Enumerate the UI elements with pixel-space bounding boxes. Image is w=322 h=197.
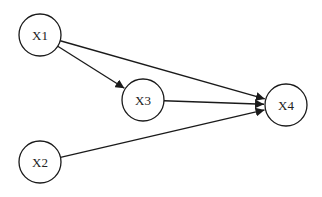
edge-x2-to-x4 bbox=[60, 110, 264, 157]
node-label: X1 bbox=[32, 28, 48, 43]
node-label: X4 bbox=[278, 98, 294, 113]
node-x1: X1 bbox=[19, 14, 61, 56]
edge-x3-to-x4 bbox=[164, 101, 264, 105]
edge-x1-to-x3 bbox=[58, 46, 125, 88]
node-x4: X4 bbox=[265, 84, 307, 126]
node-label: X3 bbox=[135, 93, 151, 108]
node-x2: X2 bbox=[19, 141, 61, 183]
node-x3: X3 bbox=[122, 79, 164, 121]
edge-x1-to-x4 bbox=[60, 41, 265, 99]
causal-diagram: X1X3X4X2 bbox=[0, 0, 322, 197]
node-label: X2 bbox=[32, 155, 48, 170]
